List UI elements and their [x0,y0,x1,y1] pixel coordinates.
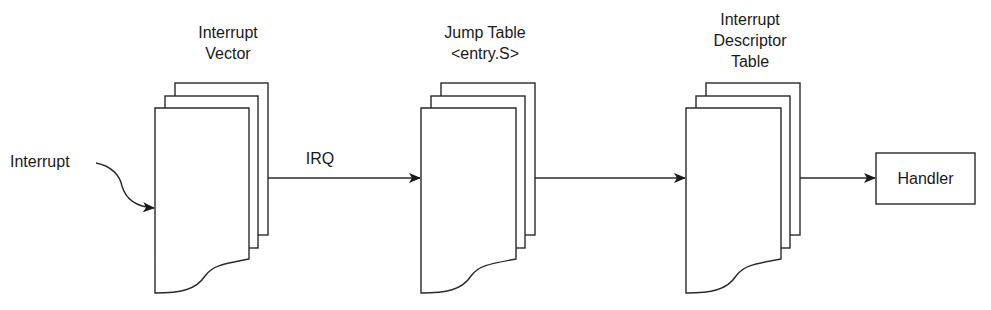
label-line: Vector [178,43,278,64]
idt-label: Interrupt Descriptor Table [690,9,810,72]
interrupt-vector-stack [155,83,268,293]
interrupt-vector-label: Interrupt Vector [178,22,278,64]
document-page-front [421,108,516,293]
document-page-front [155,108,249,293]
document-page-front [686,108,781,293]
label-line: Interrupt [178,22,278,43]
label-line: Descriptor [690,30,810,51]
label-line: Table [690,51,810,72]
label-line: Jump Table [430,22,540,43]
handler-label: Handler [876,168,975,189]
jump-table-label: Jump Table <entry.S> [430,22,540,64]
interrupt-curved-arrow [96,163,154,208]
irq-label: IRQ [290,148,350,169]
diagram-canvas: Interrupt Vector Jump Table <entry.S> In… [0,0,991,310]
jump-table-stack [421,83,535,293]
label-line: <entry.S> [430,43,540,64]
label-line: Interrupt [690,9,810,30]
idt-stack [686,83,800,293]
interrupt-source-label: Interrupt [10,151,70,172]
